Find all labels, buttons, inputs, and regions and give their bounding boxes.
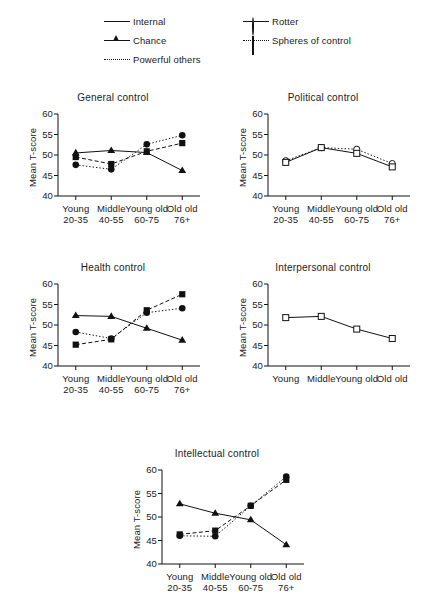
chart-panel-interpersonal-control: Interpersonal controlMean T-score6055504…: [228, 262, 418, 410]
legend-item-internal: Internal: [104, 12, 201, 31]
legend-label-chance: Chance: [133, 35, 166, 47]
legend-column-left: Internal Chance Powerful others: [104, 12, 201, 69]
series-line: [76, 143, 183, 164]
series-line: [286, 316, 393, 338]
series-line: [76, 294, 183, 344]
legend-item-chance: Chance: [104, 31, 201, 50]
series-line: [286, 148, 393, 167]
legend-swatch-rotter: [243, 16, 269, 28]
chart-panel-general-control: General controlMean T-score6055504540You…: [18, 92, 208, 240]
plot-area: [18, 92, 208, 240]
series-line: [76, 308, 183, 338]
plot-area: [228, 262, 418, 410]
plot-area: [122, 448, 312, 608]
legend-item-rotter: Rotter: [243, 12, 351, 31]
legend-swatch-chance: [104, 35, 130, 47]
legend-label-powerful-others: Powerful others: [133, 54, 201, 66]
legend-label-spheres-of-control: Spheres of control: [272, 35, 351, 47]
series-line: [180, 480, 287, 535]
legend-item-spheres-of-control: Spheres of control: [243, 31, 351, 50]
legend-item-powerful-others: Powerful others: [104, 50, 201, 69]
series-line: [180, 504, 287, 545]
chart-panel-political-control: Political controlMean T-score6055504540Y…: [228, 92, 418, 240]
legend-label-internal: Internal: [133, 16, 166, 28]
figure-root: Internal Chance Powerful others Rotte: [0, 0, 437, 616]
legend: Internal Chance Powerful others Rotte: [0, 12, 437, 78]
legend-swatch-spheres-of-control: [243, 35, 269, 47]
series-line: [180, 477, 287, 537]
plot-area: [228, 92, 418, 240]
legend-column-right: Rotter Spheres of control: [243, 12, 351, 50]
legend-swatch-internal: [104, 16, 130, 28]
chart-panel-health-control: Health controlMean T-score6055504540Youn…: [18, 262, 208, 410]
plot-area: [18, 262, 208, 410]
chart-panel-intellectual-control: Intellectual controlMean T-score60555045…: [122, 448, 312, 608]
legend-swatch-powerful-others: [104, 54, 130, 66]
series-line: [76, 316, 183, 341]
legend-label-rotter: Rotter: [272, 16, 298, 28]
